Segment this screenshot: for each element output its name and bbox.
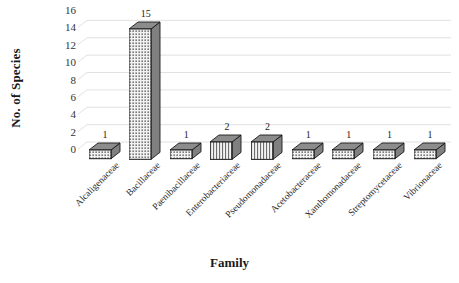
y-axis-tick: 10	[65, 57, 76, 68]
x-axis-title: Family	[0, 255, 459, 271]
bar-value-label: 2	[265, 122, 270, 132]
y-axis-tick: 0	[71, 144, 77, 155]
y-axis-tick: 2	[71, 126, 77, 137]
y-axis-title: No. of Species	[4, 0, 28, 175]
bar-alcaligenaceae[interactable]: 1	[86, 10, 124, 160]
bar-pseudomonadaceae[interactable]: 2	[249, 10, 287, 160]
bar-chart: No. of Species 0246810121416 1151221111 …	[0, 0, 459, 283]
y-axis-tick: 6	[71, 91, 77, 102]
bar-value-label: 2	[224, 122, 229, 132]
y-axis-title-label: No. of Species	[8, 48, 24, 128]
bar-enterobacteriaceae[interactable]: 2	[208, 10, 246, 160]
y-axis-tick-labels: 0246810121416	[56, 10, 76, 149]
bar-value-label: 1	[184, 130, 189, 140]
bar-shape	[251, 134, 284, 160]
bar-acetobacteraceae[interactable]: 1	[289, 10, 327, 160]
plot-area: 0246810121416 1151221111	[56, 10, 451, 165]
y-axis-tick: 16	[65, 5, 76, 16]
bar-value-label: 1	[103, 130, 108, 140]
bar-shape	[210, 134, 243, 160]
bar-value-label: 1	[346, 130, 351, 140]
bar-shape	[170, 142, 203, 160]
bar-shape	[414, 142, 447, 160]
y-axis-tick: 12	[65, 39, 76, 50]
bar-shape	[332, 142, 365, 160]
bar-shape	[129, 21, 162, 160]
bar-value-label: 1	[306, 130, 311, 140]
bar-shape	[292, 142, 325, 160]
bar-xanthomonadaceae[interactable]: 1	[330, 10, 368, 160]
bars-container: 1151221111	[86, 10, 449, 160]
bar-paenibacillaceae[interactable]: 1	[167, 10, 205, 160]
bar-value-label: 1	[428, 130, 433, 140]
bar-shape	[89, 142, 122, 160]
bar-bacillaceae[interactable]: 15	[127, 10, 165, 160]
x-axis-tick-label: Alcaligenaceae	[73, 160, 121, 208]
bar-streptomycetaceae[interactable]: 1	[370, 10, 408, 160]
y-axis-tick: 14	[65, 22, 76, 33]
x-axis-title-label: Family	[210, 255, 249, 270]
x-axis-tick-label: Bacillaceae	[124, 160, 162, 198]
bar-vibrionaceae[interactable]: 1	[411, 10, 449, 160]
x-axis-tick-labels: AlcaligenaceaeBacillaceaePaenibacillacea…	[56, 160, 451, 248]
bar-value-label: 1	[387, 130, 392, 140]
y-axis-tick: 4	[71, 109, 77, 120]
y-axis-tick: 8	[71, 74, 77, 85]
bar-shape	[373, 142, 406, 160]
bar-value-label: 15	[141, 9, 151, 19]
x-axis-tick-label: Vibrionaceae	[401, 160, 443, 202]
